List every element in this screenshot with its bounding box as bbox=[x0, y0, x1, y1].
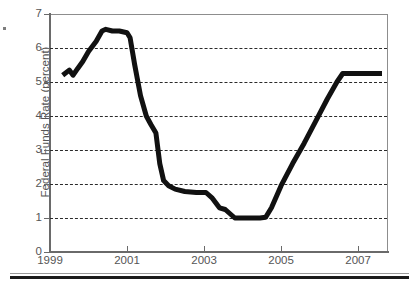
y-tick-7 bbox=[44, 14, 50, 15]
y-tick-label-2: 2 bbox=[0, 178, 42, 190]
y-axis-line bbox=[49, 13, 51, 253]
x-tick-label-1999: 1999 bbox=[20, 254, 80, 267]
y-tick-label-6: 6 bbox=[0, 42, 42, 54]
gridline-4 bbox=[50, 116, 387, 117]
y-tick-label-5: 5 bbox=[0, 76, 42, 88]
y-tick-5 bbox=[44, 82, 50, 83]
gridline-6 bbox=[50, 48, 387, 49]
x-tick-label-2003: 2003 bbox=[174, 254, 234, 267]
y-tick-6 bbox=[44, 48, 50, 49]
footer-rule-thick bbox=[10, 276, 409, 279]
gridline-1 bbox=[50, 218, 387, 219]
footer-rule-thin bbox=[10, 273, 409, 274]
y-tick-0 bbox=[44, 252, 50, 253]
plot-area bbox=[49, 14, 388, 252]
x-tick-label-2005: 2005 bbox=[251, 254, 311, 267]
x-tick-2007 bbox=[358, 246, 359, 252]
y-tick-label-7: 7 bbox=[0, 8, 42, 20]
y-tick-label-3: 3 bbox=[0, 144, 42, 156]
y-tick-label-1: 1 bbox=[0, 212, 42, 224]
x-axis-line bbox=[49, 251, 389, 253]
x-tick-2005 bbox=[281, 246, 282, 252]
gridline-3 bbox=[50, 150, 387, 151]
figure-container: Federal Funds Rate (percent) 01234567 19… bbox=[0, 0, 418, 286]
y-tick-label-4: 4 bbox=[0, 110, 42, 122]
gridline-2 bbox=[50, 184, 387, 185]
x-tick-label-2007: 2007 bbox=[328, 254, 388, 267]
x-tick-label-2001: 2001 bbox=[97, 254, 157, 267]
x-tick-2003 bbox=[204, 246, 205, 252]
y-tick-4 bbox=[44, 116, 50, 117]
y-tick-3 bbox=[44, 150, 50, 151]
y-tick-2 bbox=[44, 184, 50, 185]
gridline-5 bbox=[50, 82, 387, 83]
x-tick-2001 bbox=[127, 246, 128, 252]
y-tick-1 bbox=[44, 218, 50, 219]
